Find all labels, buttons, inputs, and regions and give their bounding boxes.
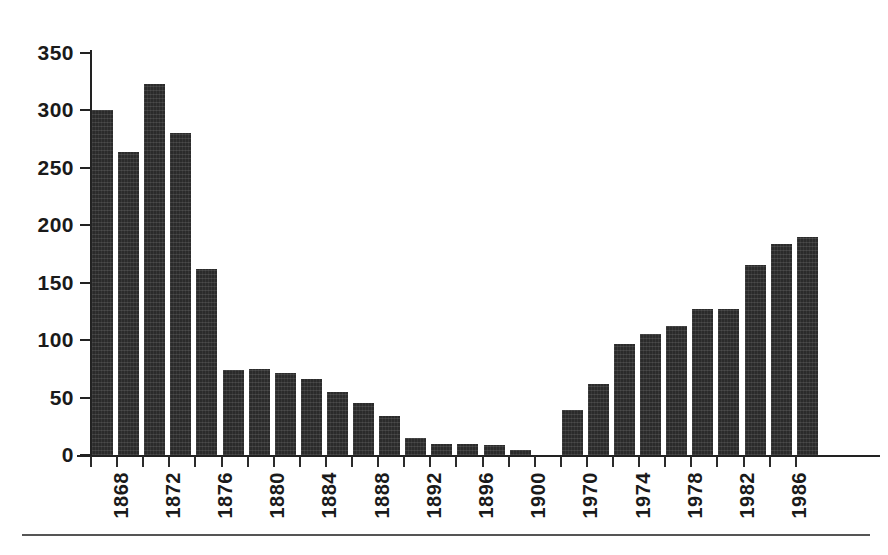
bar xyxy=(614,344,635,455)
x-axis-tick xyxy=(142,456,144,467)
bar xyxy=(692,309,713,455)
bar xyxy=(170,133,191,455)
x-axis-tick xyxy=(560,456,562,467)
bar xyxy=(718,309,739,455)
bar xyxy=(510,450,531,455)
bar xyxy=(196,269,217,455)
x-axis-tick xyxy=(612,456,614,467)
y-axis-tick xyxy=(80,339,91,341)
x-axis-tick xyxy=(743,456,745,467)
x-axis-tick-label: 1884 xyxy=(319,472,339,519)
x-axis-tick xyxy=(769,456,771,467)
y-axis-tick-label: 300 xyxy=(12,99,74,120)
y-axis-tick-label: 100 xyxy=(12,329,74,350)
bar xyxy=(249,369,270,455)
y-axis-tick xyxy=(80,224,91,226)
bar xyxy=(431,444,452,455)
x-axis-tick xyxy=(586,456,588,467)
bar xyxy=(405,438,426,455)
bar xyxy=(457,444,478,455)
bar xyxy=(588,384,609,455)
x-axis-tick xyxy=(508,456,510,467)
x-axis-tick xyxy=(429,456,431,467)
x-axis-tick-label: 1888 xyxy=(372,472,392,519)
x-axis-tick xyxy=(534,456,536,467)
x-axis-tick xyxy=(690,456,692,467)
y-axis-labels: 050100150200250300350 xyxy=(8,0,74,555)
y-axis-tick-label: 250 xyxy=(12,157,74,178)
x-axis-tick xyxy=(664,456,666,467)
x-axis-tick-label: 1974 xyxy=(633,472,653,519)
bar xyxy=(745,265,766,455)
x-axis-tick xyxy=(194,456,196,467)
bar xyxy=(275,373,296,455)
bar xyxy=(327,392,348,455)
x-axis-tick-label: 1978 xyxy=(685,472,705,519)
bar xyxy=(562,410,583,455)
bar xyxy=(771,244,792,455)
x-axis-tick xyxy=(247,456,249,467)
y-axis-tick-label: 0 xyxy=(12,444,74,465)
bar xyxy=(666,326,687,455)
bottom-divider-rule xyxy=(22,534,870,536)
x-axis-tick xyxy=(90,456,92,467)
x-axis-tick-label: 1986 xyxy=(789,472,809,519)
bar xyxy=(353,403,374,455)
x-axis-tick xyxy=(351,456,353,467)
x-axis-tick-label: 1970 xyxy=(580,472,600,519)
x-axis-tick-label: 1982 xyxy=(737,472,757,519)
bar xyxy=(118,152,139,455)
x-axis-tick-label: 1880 xyxy=(267,472,287,519)
y-axis-tick xyxy=(80,109,91,111)
x-axis-tick xyxy=(482,456,484,467)
x-axis-tick xyxy=(716,456,718,467)
x-axis-tick-label: 1876 xyxy=(215,472,235,519)
x-axis-tick xyxy=(116,456,118,467)
x-axis-tick-label: 1872 xyxy=(163,472,183,519)
bar xyxy=(144,84,165,455)
x-axis-tick xyxy=(299,456,301,467)
x-axis-line xyxy=(77,455,880,457)
x-axis-tick-label: 1868 xyxy=(111,472,131,519)
x-axis-tick xyxy=(273,456,275,467)
y-axis-tick xyxy=(80,167,91,169)
y-axis-tick xyxy=(80,282,91,284)
x-axis-tick-label: 1896 xyxy=(476,472,496,519)
x-axis-tick xyxy=(168,456,170,467)
y-axis-tick xyxy=(80,52,91,54)
x-axis-tick xyxy=(221,456,223,467)
x-axis-tick xyxy=(325,456,327,467)
x-axis-tick xyxy=(403,456,405,467)
bar xyxy=(640,334,661,455)
x-axis-tick xyxy=(638,456,640,467)
bar xyxy=(484,445,505,455)
x-axis-tick-label: 1900 xyxy=(528,472,548,519)
y-axis-tick xyxy=(80,397,91,399)
bar xyxy=(223,370,244,455)
x-axis-tick xyxy=(455,456,457,467)
y-axis-tick-label: 350 xyxy=(12,42,74,63)
bar xyxy=(301,379,322,455)
bar-chart-figure: 050100150200250300350 186818721876188018… xyxy=(0,0,888,555)
bar xyxy=(797,237,818,455)
x-axis-tick xyxy=(377,456,379,467)
x-axis-tick xyxy=(795,456,797,467)
y-axis-tick-label: 200 xyxy=(12,214,74,235)
bar xyxy=(92,110,113,455)
y-axis-tick-label: 50 xyxy=(12,387,74,408)
x-axis-tick-label: 1892 xyxy=(424,472,444,519)
y-axis-tick-label: 150 xyxy=(12,272,74,293)
bar xyxy=(379,416,400,455)
